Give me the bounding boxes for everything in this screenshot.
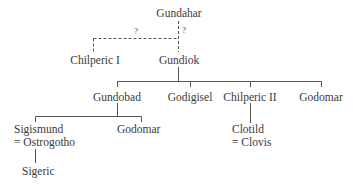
node-godomar-son: Godomar (117, 123, 160, 136)
node-clotild: Clotild (232, 123, 264, 136)
node-gundiok: Gundiok (159, 54, 199, 67)
spouse-ostrogotho: = Ostrogotho (14, 136, 75, 149)
node-chilperic-ii: Chilperic II (223, 91, 276, 104)
node-godomar: Godomar (299, 91, 342, 104)
node-sigeric: Sigeric (22, 165, 55, 178)
node-chilperic-i: Chilperic I (70, 54, 120, 67)
node-gundobad: Gundobad (93, 91, 141, 104)
node-sigismund: Sigismund (14, 123, 63, 136)
uncertain-mark-right: ? (182, 25, 186, 35)
spouse-clovis: = Clovis (232, 136, 271, 149)
node-godigisel: Godigisel (168, 91, 213, 104)
uncertain-mark-left: ? (134, 26, 138, 36)
node-gundahar: Gundahar (156, 7, 201, 20)
